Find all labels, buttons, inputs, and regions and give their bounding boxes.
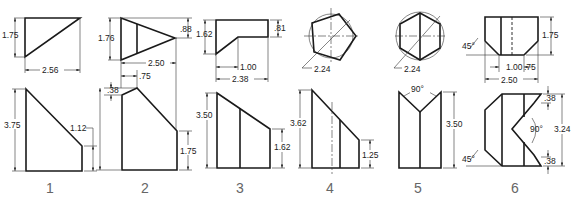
dim-label: 45° bbox=[462, 154, 475, 164]
front-view bbox=[217, 93, 270, 168]
problem-number: 4 bbox=[326, 180, 334, 196]
problem-number: 6 bbox=[511, 180, 519, 196]
dim-label: 2.56 bbox=[42, 65, 59, 75]
dim-label: .38 bbox=[544, 156, 556, 166]
dim-label: .88 bbox=[180, 24, 192, 34]
dim-label: .81 bbox=[274, 23, 286, 33]
dim-label: 1.75 bbox=[180, 146, 197, 156]
top-view bbox=[485, 17, 538, 55]
dim-label: 3.75 bbox=[4, 120, 21, 130]
dim-label: 1.62 bbox=[196, 29, 213, 39]
dim-label: 90° bbox=[411, 84, 424, 94]
problem-2: 1.76 .88 2.50 .75 .38 1.75 2 bbox=[96, 18, 198, 196]
dim-label: 2.50 bbox=[501, 75, 518, 85]
dim-label: .38 bbox=[107, 85, 119, 95]
problem-4: 2.24 3.62 1.25 4 bbox=[290, 8, 381, 196]
dim-label: 1.76 bbox=[98, 33, 115, 43]
dim-label: 3.50 bbox=[446, 119, 463, 129]
dim-label: 1.25 bbox=[362, 150, 379, 160]
problem-3: 1.62 .81 1.00 2.38 3.50 1.62 3 bbox=[196, 20, 293, 196]
dim-label: 2.24 bbox=[404, 64, 421, 74]
top-view bbox=[216, 20, 268, 54]
problem-6: 45° 1.75 1.00 .75 2.50 90° .38 .38 3.24 … bbox=[462, 17, 573, 196]
front-view bbox=[122, 88, 177, 170]
dim-label: 2.24 bbox=[314, 64, 331, 74]
problem-1: 1.75 2.56 3.75 1.12 1 bbox=[2, 18, 97, 196]
front-view bbox=[312, 90, 359, 168]
dim-label: 1.62 bbox=[274, 142, 291, 152]
dim-label: .38 bbox=[544, 93, 556, 103]
dim-label: 1.00 bbox=[240, 62, 257, 72]
dim-label: 1.00 bbox=[506, 62, 523, 72]
problem-number: 3 bbox=[236, 180, 244, 196]
problem-5: 2.24 90° 3.50 5 bbox=[394, 12, 465, 196]
dim-label: 3.24 bbox=[554, 124, 571, 134]
dim-label: 3.62 bbox=[290, 118, 307, 128]
dim-label: 2.38 bbox=[232, 74, 249, 84]
dim-label: 1.12 bbox=[70, 123, 87, 133]
dim-label: 3.50 bbox=[196, 110, 213, 120]
dim-label: 1.75 bbox=[542, 30, 559, 40]
drawing-sheet: 1.75 2.56 3.75 1.12 1 1.76 .88 2.50 .75 bbox=[0, 0, 578, 197]
dim-label: 2.50 bbox=[148, 58, 165, 68]
dim-label: 90° bbox=[530, 124, 543, 134]
dim-label: .75 bbox=[524, 62, 536, 72]
problem-number: 1 bbox=[46, 180, 54, 196]
dim-label: .75 bbox=[139, 71, 151, 81]
dim-label: 45° bbox=[462, 41, 475, 51]
problem-number: 5 bbox=[414, 180, 422, 196]
top-view bbox=[25, 18, 80, 57]
dim-label: 1.75 bbox=[2, 30, 19, 40]
problem-number: 2 bbox=[141, 180, 149, 196]
top-view bbox=[121, 18, 175, 60]
